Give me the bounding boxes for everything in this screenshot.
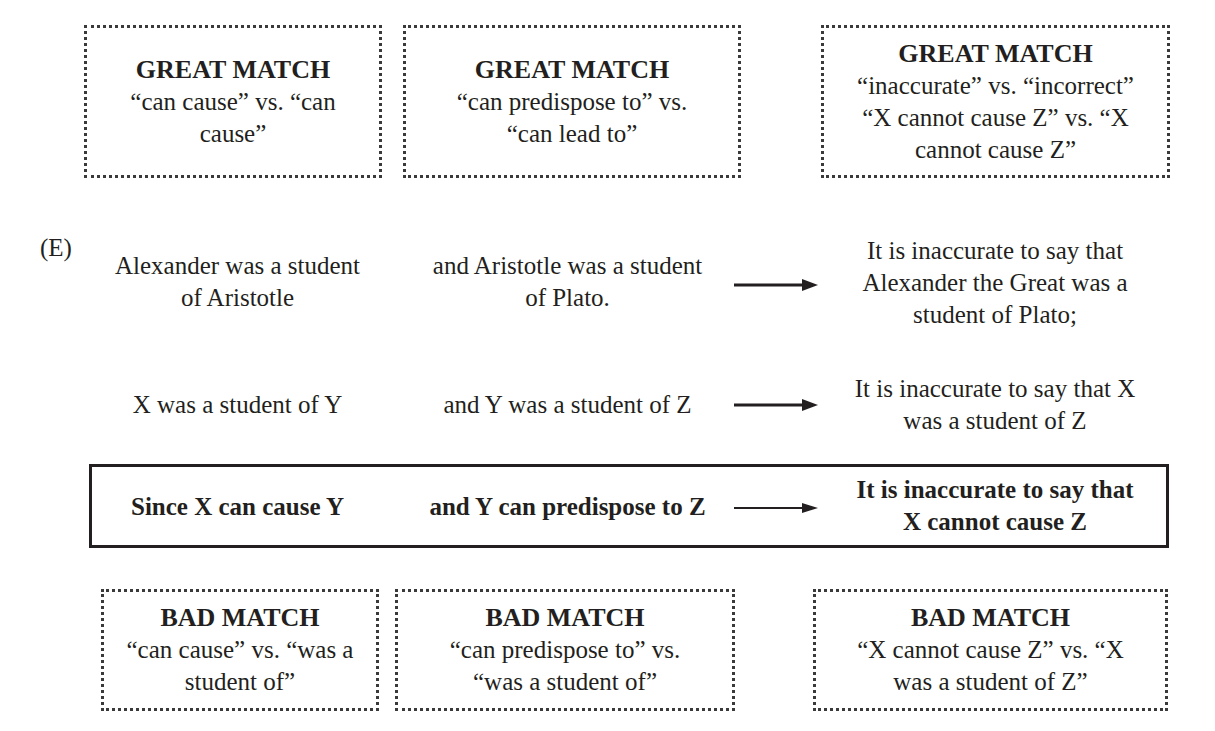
row1-premise1: Alexander was a student of Aristotle — [95, 250, 380, 314]
summary-premise1: Since X can cause Y — [95, 491, 380, 523]
premise-line: and Aristotle was a student — [405, 250, 730, 282]
right-arrow-icon — [734, 501, 818, 515]
bad-match-text: student of” — [185, 666, 295, 698]
great-match-title: GREAT MATCH — [898, 38, 1092, 70]
bad-match-text: “was a student of” — [473, 666, 657, 698]
bad-match-box-2: BAD MATCH “can predispose to” vs. “was a… — [395, 589, 735, 711]
great-match-text: cause” — [200, 118, 267, 150]
premise-line: of Plato. — [405, 282, 730, 314]
premise-line: and Y was a student of Z — [405, 389, 730, 421]
premise-line: and Y can predispose to Z — [405, 491, 730, 523]
row1-conclusion: It is inaccurate to say that Alexander t… — [820, 235, 1170, 331]
summary-conclusion: It is inaccurate to say that X cannot ca… — [820, 474, 1170, 538]
great-match-text: “X cannot cause Z” vs. “X — [862, 102, 1129, 134]
great-match-text: cannot cause Z” — [915, 134, 1076, 166]
bad-match-text: was a student of Z” — [893, 666, 1087, 698]
great-match-title: GREAT MATCH — [475, 54, 669, 86]
summary-premise2: and Y can predispose to Z — [405, 491, 730, 523]
premise-line: Since X can cause Y — [95, 491, 380, 523]
row2-premise2: and Y was a student of Z — [405, 389, 730, 421]
great-match-text: “inaccurate” vs. “incorrect” — [857, 70, 1134, 102]
conclusion-line: It is inaccurate to say that — [820, 235, 1170, 267]
row1-premise2: and Aristotle was a student of Plato. — [405, 250, 730, 314]
conclusion-line: It is inaccurate to say that — [820, 474, 1170, 506]
conclusion-line: It is inaccurate to say that X — [820, 373, 1170, 405]
great-match-text: “can cause” vs. “can — [130, 86, 335, 118]
bad-match-title: BAD MATCH — [911, 602, 1070, 634]
right-arrow-icon — [734, 398, 818, 412]
bad-match-box-1: BAD MATCH “can cause” vs. “was a student… — [101, 589, 379, 711]
bad-match-text: “can predispose to” vs. — [450, 634, 680, 666]
conclusion-line: was a student of Z — [820, 405, 1170, 437]
premise-line: of Aristotle — [95, 282, 380, 314]
premise-line: X was a student of Y — [95, 389, 380, 421]
great-match-box-2: GREAT MATCH “can predispose to” vs. “can… — [403, 25, 741, 178]
great-match-box-1: GREAT MATCH “can cause” vs. “can cause” — [84, 25, 382, 178]
bad-match-box-3: BAD MATCH “X cannot cause Z” vs. “X was … — [813, 589, 1168, 711]
great-match-box-3: GREAT MATCH “inaccurate” vs. “incorrect”… — [821, 25, 1170, 178]
bad-match-text: “can cause” vs. “was a — [127, 634, 354, 666]
right-arrow-icon — [734, 278, 818, 292]
conclusion-line: Alexander the Great was a — [820, 267, 1170, 299]
row2-conclusion: It is inaccurate to say that X was a stu… — [820, 373, 1170, 437]
row2-premise1: X was a student of Y — [95, 389, 380, 421]
choice-label: (E) — [40, 232, 72, 264]
conclusion-line: X cannot cause Z — [820, 506, 1170, 538]
bad-match-title: BAD MATCH — [485, 602, 644, 634]
great-match-text: “can predispose to” vs. — [457, 86, 687, 118]
premise-line: Alexander was a student — [95, 250, 380, 282]
bad-match-text: “X cannot cause Z” vs. “X — [857, 634, 1124, 666]
conclusion-line: student of Plato; — [820, 299, 1170, 331]
great-match-text: “can lead to” — [507, 118, 637, 150]
great-match-title: GREAT MATCH — [136, 54, 330, 86]
bad-match-title: BAD MATCH — [160, 602, 319, 634]
